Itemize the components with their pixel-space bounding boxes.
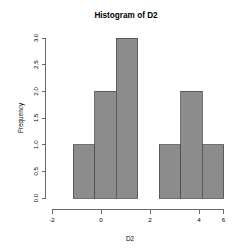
histogram-bar [202,145,223,198]
y-tick-label: 3.0 [32,33,39,42]
x-tick-label: 2 [148,216,152,223]
x-tick-label: 6 [222,216,226,223]
y-axis-title: Frequency [17,102,25,133]
y-tick-label: 0.0 [32,193,39,202]
histogram-bar [181,91,202,198]
x-axis-title: D2 [126,235,135,242]
x-tick-label: 4 [197,216,201,223]
x-tick-label: -2 [49,216,55,223]
y-tick-label: 2.0 [32,87,39,96]
y-tick-label: 1.0 [32,140,39,149]
x-tick-label: 0 [99,216,103,223]
y-tick-label: 1.5 [32,113,39,122]
histogram-bar [116,38,137,198]
chart-title: Histogram of D2 [94,11,158,20]
histogram-bar [95,91,116,198]
histogram-bar [159,145,180,198]
histogram-plot-area: Histogram of D2 0.0 0.5 1.0 1.5 2.0 2.5 … [0,0,252,250]
histogram-svg: Histogram of D2 0.0 0.5 1.0 1.5 2.0 2.5 … [0,0,252,250]
histogram-bar [73,145,94,198]
y-tick-label: 0.5 [32,166,39,175]
y-tick-label: 2.5 [32,60,39,69]
